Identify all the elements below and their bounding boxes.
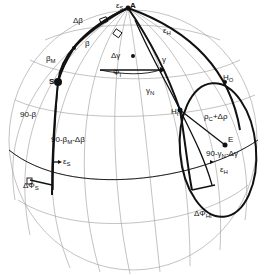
- point-delta-gamma: [131, 54, 135, 58]
- point-beta: [72, 46, 76, 50]
- label-beta: β: [85, 40, 90, 48]
- spherical-diagram: [0, 0, 266, 275]
- label-delta-phi-s: ΔΦS: [23, 182, 39, 191]
- arrows: [53, 67, 214, 164]
- point-E: [223, 143, 228, 148]
- label-H1: HI: [171, 108, 178, 117]
- label-delta-beta: Δβ: [73, 17, 83, 25]
- label-E: E: [228, 136, 233, 144]
- label-phi-i: ΦI: [113, 69, 121, 78]
- right-angle-markers: [27, 17, 122, 184]
- label-beta-m: βM: [46, 55, 56, 64]
- label-delta-gamma: Δγ: [111, 52, 120, 60]
- label-ninety-gamma: 90-γN-Δγ: [206, 150, 238, 159]
- label-gamma-n: γN: [146, 87, 154, 96]
- point-S: [54, 78, 62, 86]
- label-H0: HO: [223, 74, 233, 83]
- label-epsilon-s-low: εS: [63, 158, 71, 167]
- label-epsilon-s-top: εS: [116, 2, 124, 11]
- label-A: A: [130, 2, 136, 10]
- label-epsilon-h-top: εH: [163, 27, 171, 36]
- label-epsilon-h-low: εH: [220, 166, 228, 175]
- label-rho: ρC+Δρ: [204, 113, 227, 122]
- label-S: S: [49, 78, 54, 86]
- label-ninety-beta-m: 90-βM-Δβ: [51, 136, 85, 145]
- label-delta-phi-hi: ΔΦHI: [194, 210, 212, 219]
- label-ninety-beta: 90-β: [20, 111, 36, 119]
- label-gamma: γ: [162, 56, 166, 64]
